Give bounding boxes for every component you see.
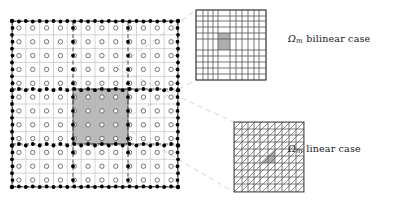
- omega-tilde-symbol-linear: Ω: [288, 143, 296, 154]
- inset-bilinear-shaded-cell: [218, 33, 230, 50]
- label-linear-case: Ωm linear case: [288, 143, 361, 155]
- omega-tilde-symbol-bilinear: Ω: [288, 33, 296, 44]
- label-bilinear-case: Ωm bilinear case: [288, 33, 370, 45]
- figure-canvas: [0, 0, 418, 205]
- label-linear-text: linear case: [306, 143, 361, 154]
- inset-bilinear-background: [196, 10, 266, 80]
- omega-subscript-bilinear: m: [296, 37, 303, 45]
- label-bilinear-text: bilinear case: [306, 33, 370, 44]
- inset-bilinear-quadrilateral-mesh: [196, 10, 266, 80]
- omega-subscript-linear: m: [296, 147, 303, 155]
